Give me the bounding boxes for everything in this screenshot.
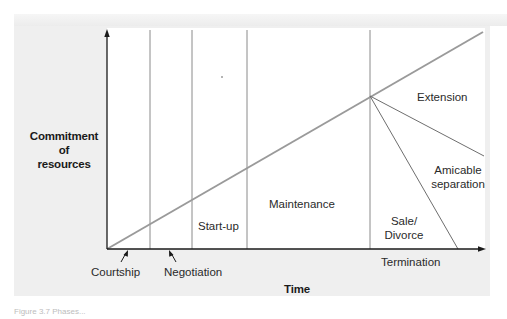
x-axis-title: Time xyxy=(282,282,312,296)
outcome-label-amicable-separation: Amicable separation xyxy=(428,163,488,191)
x-axis-arrowhead-icon xyxy=(478,246,486,251)
y-axis-arrowhead-icon xyxy=(104,29,109,37)
amicable-line1: Amicable xyxy=(428,163,488,177)
stray-dot xyxy=(221,76,223,78)
phase-label-maintenance: Maintenance xyxy=(269,197,335,211)
phase-label-negotiation: Negotiation xyxy=(164,265,222,279)
amicable-line2: separation xyxy=(428,177,488,191)
phase-label-start-up: Start-up xyxy=(198,219,239,233)
y-axis-title-line2: resources xyxy=(26,157,102,171)
outcome-label-sale-divorce: Sale/ Divorce xyxy=(381,214,427,242)
phase-label-termination: Termination xyxy=(381,255,440,269)
y-axis-title-line1: Commitment of xyxy=(26,129,102,157)
sale-divorce-line1: Sale/ xyxy=(381,214,427,228)
outcome-label-extension: Extension xyxy=(417,90,468,104)
sale-divorce-line2: Divorce xyxy=(381,228,427,242)
figure-caption: Figure 3.7 Phases... xyxy=(14,307,94,317)
y-axis-title: Commitment of resources xyxy=(26,129,102,171)
phase-label-courtship: Courtship xyxy=(91,265,140,279)
